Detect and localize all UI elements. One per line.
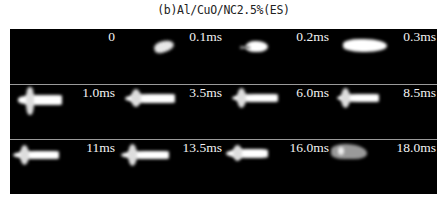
frame-time-label: 0 [108, 30, 115, 44]
flame-plume [343, 39, 387, 52]
frame-0ms: 0 [10, 29, 117, 83]
flame-residue [331, 144, 367, 159]
frame-0-3ms: 0.3ms [331, 29, 438, 83]
flame-core [237, 88, 246, 108]
frame-time-label: 18.0ms [397, 141, 436, 155]
flame-tail [240, 46, 250, 49]
flame-core [131, 89, 141, 107]
frame-18-0ms: 18.0ms [331, 140, 438, 194]
flame-plume [153, 38, 175, 55]
flame-hotspot [338, 147, 344, 155]
frame-time-label: 16.0ms [290, 141, 329, 155]
frame-row-3: 11ms 13.5ms 16.0ms 18.0ms [10, 139, 437, 194]
frame-time-label: 0.1ms [189, 30, 222, 44]
frame-time-label: 11ms [86, 141, 115, 155]
frame-6-0ms: 6.0ms [224, 85, 331, 139]
frame-0-1ms: 0.1ms [117, 29, 224, 83]
frame-time-label: 1.0ms [82, 86, 115, 100]
flame-core [233, 145, 242, 161]
frame-11ms: 11ms [10, 140, 117, 194]
frame-time-label: 0.2ms [296, 30, 329, 44]
high-speed-image-sequence: 0 0.1ms 0.2ms 0.3ms 1.0ms 3.5ms [10, 29, 437, 194]
flame-core [341, 88, 350, 108]
frame-16-0ms: 16.0ms [224, 140, 331, 194]
frame-time-label: 3.5ms [189, 86, 222, 100]
frame-8-5ms: 8.5ms [331, 85, 438, 139]
flame-jet [18, 95, 62, 105]
frame-time-label: 13.5ms [183, 141, 222, 155]
frame-0-2ms: 0.2ms [224, 29, 331, 83]
flame-core [20, 145, 29, 165]
flame-core [128, 144, 137, 166]
frame-1-0ms: 1.0ms [10, 85, 117, 139]
frame-time-label: 0.3ms [403, 30, 436, 44]
frame-13-5ms: 13.5ms [117, 140, 224, 194]
flame-core [26, 87, 34, 115]
figure-caption: (b)Al/CuO/NC2.5%(ES) [0, 3, 447, 17]
frame-3-5ms: 3.5ms [117, 85, 224, 139]
frame-row-1: 0 0.1ms 0.2ms 0.3ms [10, 29, 437, 83]
frame-row-2: 1.0ms 3.5ms 6.0ms 8.5ms [10, 84, 437, 139]
frame-time-label: 6.0ms [296, 86, 329, 100]
frame-time-label: 8.5ms [403, 86, 436, 100]
